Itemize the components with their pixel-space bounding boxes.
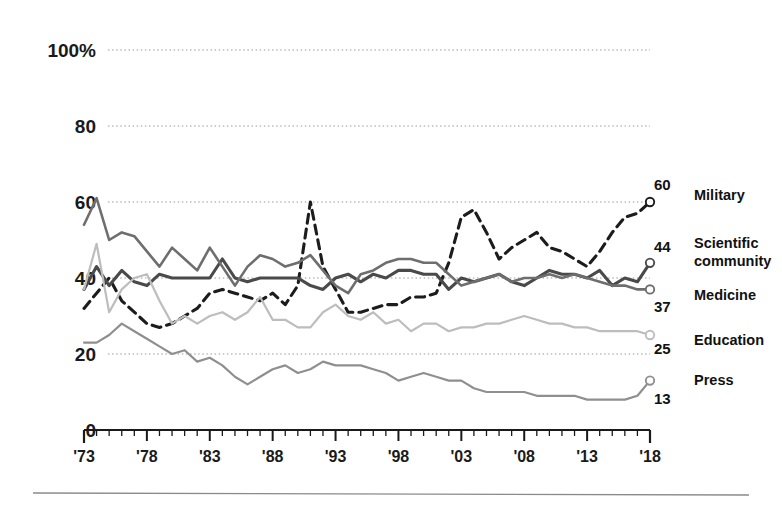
chart-container: 100%806040200 '73'78'83'88'93'98'03'08'1… (0, 0, 782, 514)
series-line-press (84, 324, 650, 400)
y-axis-tick-label: 80 (75, 116, 96, 137)
gridlines (108, 50, 650, 354)
series-line-education (84, 244, 650, 335)
series-line-military (84, 202, 650, 327)
series-legend-label-military: Military (694, 187, 745, 203)
series-end-value-medicine: 37 (654, 298, 671, 315)
x-axis-tick-label: '78 (136, 448, 158, 465)
series-endpoint-markers (646, 198, 654, 385)
x-axis-tick-label: '88 (262, 448, 284, 465)
endpoint-marker-press (646, 376, 654, 384)
series-end-values: 6044372513 (654, 176, 671, 407)
x-axis-tick-label: '08 (513, 448, 535, 465)
endpoint-marker-scientific-community (646, 259, 654, 267)
series-legend-label-scientific: Scientific (694, 235, 758, 251)
bottom-divider-rule (33, 493, 749, 495)
y-axis-tick-label: 100% (47, 40, 96, 61)
x-axis-tick-label: '93 (325, 448, 347, 465)
endpoint-marker-medicine (646, 285, 654, 293)
endpoint-marker-military (646, 198, 654, 206)
data-series (84, 198, 650, 399)
series-end-value-military: 60 (654, 176, 671, 193)
x-axis-tick-label: '83 (199, 448, 221, 465)
x-axis-tick-label: '18 (639, 448, 661, 465)
series-legend-label-scientific: community (694, 253, 771, 269)
x-axis-tick-label: '03 (451, 448, 473, 465)
x-axis-tick-label: '13 (576, 448, 598, 465)
series-legend-label-press: Press (694, 372, 734, 388)
x-axis-tick-label: '73 (73, 448, 95, 465)
x-axis (84, 430, 650, 443)
endpoint-marker-education (646, 331, 654, 339)
y-axis-labels: 100%806040200 (47, 40, 96, 441)
series-legend-label-education: Education (694, 332, 764, 348)
y-axis-tick-label: 20 (75, 344, 96, 365)
series-end-value-scientific: 44 (654, 238, 671, 255)
series-end-value-press: 13 (654, 390, 671, 407)
series-end-value-education: 25 (654, 340, 671, 357)
series-legend-labels: MilitaryScientificcommunityMedicineEduca… (694, 187, 771, 388)
y-axis-tick-label: 60 (75, 192, 96, 213)
series-legend-label-medicine: Medicine (694, 287, 756, 303)
x-axis-tick-label: '98 (388, 448, 410, 465)
line-chart: 100%806040200 '73'78'83'88'93'98'03'08'1… (0, 0, 782, 514)
x-axis-labels: '73'78'83'88'93'98'03'08'13'18 (73, 448, 661, 465)
series-line-scientific-community (84, 259, 650, 289)
